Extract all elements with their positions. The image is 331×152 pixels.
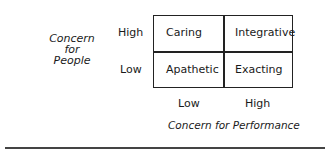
x-tick-low: Low (178, 97, 200, 110)
bottom-divider (5, 147, 325, 149)
y-axis-label: Concern for People (40, 33, 104, 66)
y-tick-low: Low (120, 63, 142, 76)
y-axis-label-line-3: People (40, 55, 104, 66)
cell-apathetic: Apathetic (166, 63, 219, 76)
cell-integrative: Integrative (235, 26, 295, 39)
grid-horizontal-divider (153, 51, 293, 53)
cell-caring: Caring (166, 26, 202, 39)
x-axis-label: Concern for Performance (168, 119, 300, 132)
cell-exacting: Exacting (235, 63, 283, 76)
x-tick-high: High (245, 97, 270, 110)
y-tick-high: High (118, 26, 143, 39)
